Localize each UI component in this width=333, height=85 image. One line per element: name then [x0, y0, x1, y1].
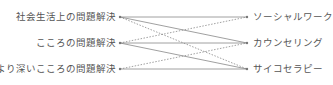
anchor-dot — [246, 16, 248, 18]
anchor-dot — [119, 42, 121, 44]
anchor-dot — [119, 68, 121, 70]
anchor-dot — [119, 16, 121, 18]
anchor-dot — [246, 42, 248, 44]
connection-lines — [0, 0, 333, 85]
anchor-dot — [246, 68, 248, 70]
